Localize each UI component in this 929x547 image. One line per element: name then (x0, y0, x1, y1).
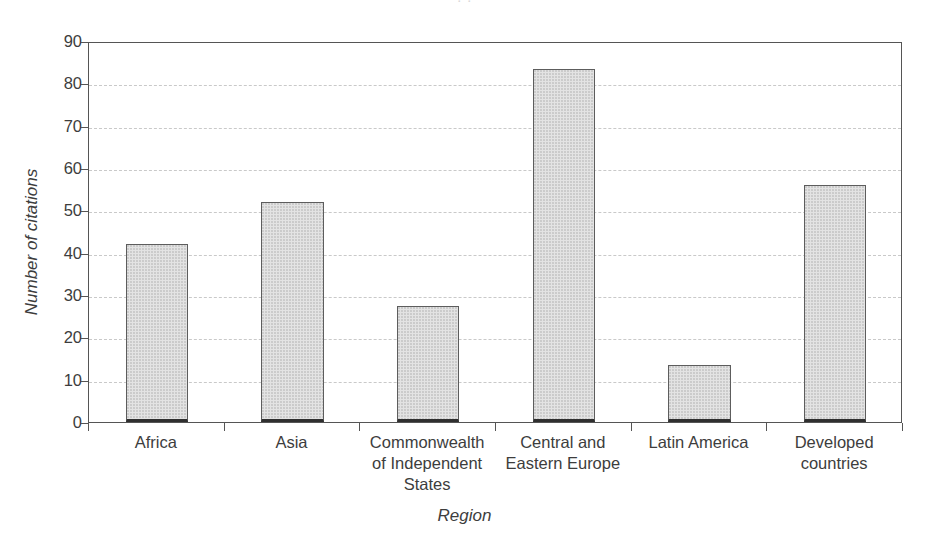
x-axis-tick-line: States (404, 475, 451, 493)
gridline (89, 382, 901, 383)
y-axis-tick-label: 30 (48, 286, 82, 305)
x-axis-title: Region (0, 506, 929, 526)
gridline (89, 339, 901, 340)
x-axis-tick-line: Africa (135, 433, 177, 451)
y-axis-tick-label: 90 (48, 32, 82, 51)
x-axis-tick-mark (495, 423, 496, 431)
x-axis-tick-label: Africa (88, 432, 224, 453)
y-axis-tick-label: 0 (48, 413, 82, 432)
x-axis-tick-label: Latin America (631, 432, 767, 453)
x-axis-tick-line: Eastern Europe (506, 454, 621, 472)
y-axis-tick-mark (81, 211, 88, 212)
x-axis-end-tick-mark (88, 423, 89, 431)
gridline (89, 297, 901, 298)
x-axis-tick-label: Developedcountries (766, 432, 902, 474)
x-axis-tick-label: Asia (224, 432, 360, 453)
x-axis-tick-mark (359, 423, 360, 431)
gridline (89, 170, 901, 171)
x-axis-tick-line: Latin America (649, 433, 749, 451)
y-axis-tick-mark (81, 169, 88, 170)
y-axis-tick-label: 10 (48, 371, 82, 390)
y-axis-tick-label: 60 (48, 159, 82, 178)
y-axis-tick-mark (81, 254, 88, 255)
y-axis-tick-mark (81, 42, 88, 43)
bar (126, 244, 188, 422)
y-axis-tick-label: 80 (48, 74, 82, 93)
x-axis-tick-label: Central andEastern Europe (495, 432, 631, 474)
x-axis-tick-mark (224, 423, 225, 431)
y-axis-tick-mark (81, 338, 88, 339)
bar (397, 306, 459, 422)
gridline (89, 128, 901, 129)
x-axis-tick-line: of Independent (372, 454, 482, 472)
gridline (89, 255, 901, 256)
y-axis-tick-label: 40 (48, 244, 82, 263)
y-axis-tick-mark (81, 84, 88, 85)
bar-chart-figure: · · 0102030405060708090 Number of citati… (0, 0, 929, 547)
x-axis-tick-mark (766, 423, 767, 431)
gridline (89, 85, 901, 86)
bar (804, 185, 866, 422)
y-axis-tick-label: 70 (48, 117, 82, 136)
x-axis-tick-mark (631, 423, 632, 431)
x-axis-end-tick-mark (902, 423, 903, 431)
plot-area (88, 42, 902, 423)
bar (261, 202, 323, 422)
y-axis-tick-mark (81, 423, 88, 424)
x-axis-tick-line: Asia (275, 433, 307, 451)
bar (533, 69, 595, 422)
x-axis-tick-line: Commonwealth (370, 433, 485, 451)
y-axis: 0102030405060708090 (40, 42, 82, 423)
y-axis-tick-mark (81, 127, 88, 128)
y-axis-tick-label: 20 (48, 328, 82, 347)
x-axis-tick-line: countries (801, 454, 868, 472)
y-axis-tick-mark (81, 381, 88, 382)
x-axis-tick-label: Commonwealthof IndependentStates (359, 432, 495, 495)
y-axis-title: Number of citations (22, 127, 42, 357)
bar (668, 365, 730, 422)
y-axis-tick-label: 50 (48, 201, 82, 220)
page-fragment-text: · · (0, 0, 929, 3)
gridline (89, 212, 901, 213)
x-axis-tick-line: Central and (520, 433, 605, 451)
y-axis-tick-mark (81, 296, 88, 297)
x-axis-tick-line: Developed (795, 433, 874, 451)
